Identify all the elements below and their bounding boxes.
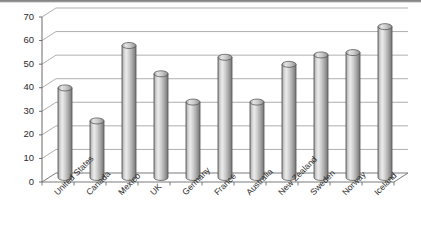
bar bbox=[58, 85, 72, 181]
bar bbox=[282, 61, 296, 180]
bar bbox=[218, 54, 232, 180]
y-tick-label: 70 bbox=[12, 12, 34, 22]
y-tick-label: 20 bbox=[12, 129, 34, 139]
y-tick-label: 0 bbox=[12, 177, 34, 187]
bar bbox=[378, 24, 392, 181]
y-tick-label: 30 bbox=[12, 106, 34, 116]
y-axis bbox=[39, 17, 42, 182]
bar bbox=[186, 99, 200, 180]
y-tick-label: 40 bbox=[12, 82, 34, 92]
bar bbox=[346, 50, 360, 181]
bar bbox=[154, 71, 168, 181]
y-tick-label: 50 bbox=[12, 59, 34, 69]
bar-chart: 010203040506070 United StatesCanadaMexic… bbox=[0, 0, 421, 249]
y-tick-label: 60 bbox=[12, 35, 34, 45]
chart-canvas bbox=[0, 0, 421, 249]
y-tick-label: 10 bbox=[12, 153, 34, 163]
bar bbox=[122, 43, 136, 181]
bar bbox=[250, 99, 264, 180]
